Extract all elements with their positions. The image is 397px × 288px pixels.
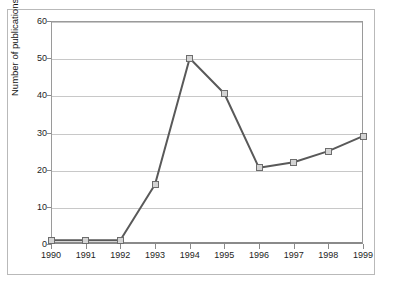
data-point-marker [48,237,55,244]
y-tick-mark [47,133,51,134]
x-tick-mark [224,244,225,249]
y-tick-mark [47,95,51,96]
y-axis-tick-labels: 0102030405060 [22,0,47,288]
gridline-y-40 [52,96,362,97]
x-tick-mark [120,244,121,249]
gridline-y-10 [52,208,362,209]
y-tick-label: 20 [37,165,47,175]
data-point-marker [256,164,263,171]
x-tick-mark [259,244,260,249]
data-point-marker [290,159,297,166]
y-tick-mark [47,58,51,59]
y-tick-mark [47,207,51,208]
data-point-marker [221,90,228,97]
y-tick-mark [47,244,51,245]
data-point-marker [186,55,193,62]
y-tick-mark [47,21,51,22]
gridline-y-50 [52,59,362,60]
gridline-y-30 [52,134,362,135]
y-tick-label: 60 [37,16,47,26]
x-tick-mark [190,244,191,249]
gridline-y-20 [52,171,362,172]
y-tick-mark [47,170,51,171]
y-tick-label: 50 [37,53,47,63]
data-point-marker [117,237,124,244]
x-tick-mark [51,244,52,249]
chart-figure: Number of publications 0102030405060 199… [0,0,397,288]
x-tick-mark [328,244,329,249]
y-tick-label: 10 [37,202,47,212]
data-point-marker [360,133,367,140]
data-point-marker [82,237,89,244]
x-tick-mark [86,244,87,249]
plot-area [51,21,363,244]
data-point-marker [325,148,332,155]
y-tick-label: 30 [37,128,47,138]
data-point-marker [152,181,159,188]
x-tick-mark [363,244,364,249]
x-tick-mark [155,244,156,249]
x-axis-line [52,242,362,243]
gridline-y-60 [52,22,362,23]
y-axis-label: Number of publications [9,0,20,96]
y-tick-label: 40 [37,90,47,100]
x-tick-mark [294,244,295,249]
x-tick-label: 1999 [343,250,383,260]
